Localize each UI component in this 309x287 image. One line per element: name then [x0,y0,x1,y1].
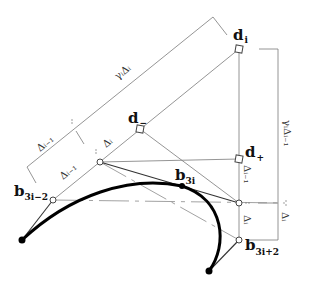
label-d-minus: d− [128,109,147,128]
label-delta-i-minus-1-upper: Δᵢ₋₁ [34,133,55,153]
diagram-canvas: di d− d+ b3i−2 b3i b3i+2 γᵢΔᵢ Δᵢ₋₁ Δᵢ Δᵢ… [0,0,309,287]
curve-start-point [19,237,26,244]
label-delta-i-upper: Δᵢ [100,135,114,149]
label-delta-i-minus-1-vertical: Δᵢ₋₁ [242,165,253,184]
label-d-plus: d+ [245,143,264,163]
label-gamma-delta-i: γᵢΔᵢ [112,62,132,81]
label-delta-i-vertical: Δᵢ [242,215,253,224]
label-b3i: b3i [175,166,196,186]
bezier-diagram: di d− d+ b3i−2 b3i b3i+2 γᵢΔᵢ Δᵢ₋₁ Δᵢ Δᵢ… [0,0,309,287]
point-d-i [235,45,243,53]
point-b3i-minus-2 [50,197,56,203]
point-b3i-plus-2 [236,237,242,243]
label-d-i: di [233,26,249,45]
curve-end-point [206,268,213,275]
label-b3i-plus-2: b3i+2 [245,236,279,257]
label-b3i-minus-2: b3i−2 [14,182,48,202]
upper-dimension-bracket [27,17,227,183]
point-d-plus [235,155,243,163]
point-left-intermediate [97,159,103,165]
point-right-intermediate [236,200,242,206]
label-delta-i-right: Δᵢ [280,212,291,221]
label-delta-i-minus-1-lower: Δᵢ₋₁ [57,161,78,181]
bezier-curve [22,183,220,271]
label-gamma-delta-i-minus-1: γᵢΔᵢ₋₁ [282,120,293,147]
